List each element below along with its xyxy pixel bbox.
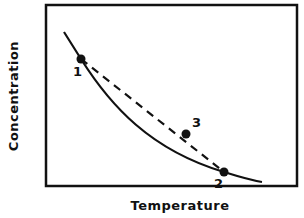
point-3-marker [182, 130, 191, 139]
plot-area: 1 2 3 [0, 0, 304, 218]
concentration-temperature-diagram: 1 2 3 Concentration Temperature [0, 0, 304, 218]
solid-curve [64, 32, 262, 182]
dashed-mixing-line [81, 59, 224, 172]
y-axis-label: Concentration [6, 36, 26, 156]
plot-frame [46, 5, 297, 186]
x-axis-label: Temperature [110, 198, 250, 216]
point-3-label: 3 [192, 115, 201, 130]
point-1-label: 1 [73, 64, 82, 79]
point-2-label: 2 [214, 176, 223, 191]
point-1-marker [77, 55, 86, 64]
